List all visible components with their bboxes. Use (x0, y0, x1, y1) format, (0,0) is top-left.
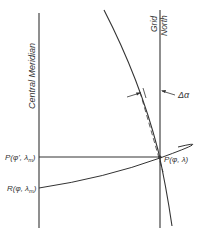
point-p-prime-label: P(φ', λm) (5, 153, 36, 163)
grid-north-label-2: North (159, 15, 169, 36)
meridian-curve (104, 10, 172, 226)
parallel-curve (39, 144, 193, 188)
svg-text:R(φ, λm): R(φ, λm) (7, 184, 37, 194)
grid-north-label-1: Grid (149, 16, 159, 32)
point-p-label: P(φ, λ) (164, 155, 189, 164)
delta-alpha-label: Δα (177, 90, 190, 100)
point-p-marker (158, 155, 161, 158)
point-r-label: R(φ, λm) (7, 184, 37, 194)
delta-alpha-tick (143, 88, 146, 98)
delta-alpha-arrowhead-right (161, 90, 166, 93)
central-meridian-label: Central Meridian (27, 43, 37, 109)
convergence-diagram: Central Meridian Grid North Δα P(φ, λ) P… (0, 0, 198, 233)
svg-text:P(φ', λm): P(φ', λm) (5, 153, 36, 163)
